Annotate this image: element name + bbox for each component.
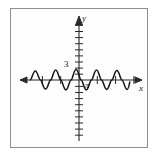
y-tick-label-three: 3 (64, 60, 69, 69)
figure-root: y x π 3 (0, 0, 159, 156)
x-axis-label: x (139, 84, 143, 93)
pi-tick-label: π (85, 82, 89, 90)
y-axis-label: y (82, 14, 86, 23)
plot-frame-border (10, 8, 148, 148)
